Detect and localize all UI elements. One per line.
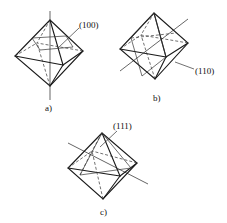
octahedron-b-edge <box>120 49 166 57</box>
octahedron-c-outline <box>68 133 137 199</box>
caption-b: b) <box>153 93 161 103</box>
plane-label-111: (111) <box>113 121 132 131</box>
octahedron-a-edge <box>63 51 83 65</box>
plane-label-110: (110) <box>195 66 214 76</box>
caption-a: a) <box>45 103 52 113</box>
plane-111-section <box>80 133 131 175</box>
octahedron-a-outline <box>15 20 83 86</box>
panel-a: (100) a) <box>15 11 99 113</box>
panel-c: (111) c) <box>68 121 148 217</box>
octahedron-a-edge <box>50 65 63 86</box>
plane-label-100: (100) <box>79 20 99 30</box>
panel-b: (110) b) <box>120 13 214 103</box>
crystal-planes-diagram: (100) a) (110) b) <box>0 0 227 223</box>
octahedron-b-outline <box>120 13 188 79</box>
octahedron-c-edge <box>103 176 120 199</box>
octahedron-a-edge <box>15 56 63 65</box>
leader-line-110 <box>175 62 194 69</box>
caption-c: c) <box>100 207 107 217</box>
